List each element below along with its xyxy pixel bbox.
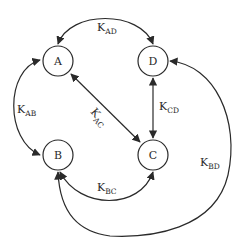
label-k-ab: KAB <box>17 103 37 118</box>
node-c-label: C <box>149 149 157 162</box>
diagram-canvas: A D B C KAD KAB KAC KCD KBC KBD <box>0 0 242 243</box>
node-d: D <box>138 46 168 76</box>
node-b: B <box>43 140 73 170</box>
node-a: A <box>43 46 73 76</box>
label-k-bd: KBD <box>200 156 220 171</box>
node-c: C <box>138 140 168 170</box>
edge-a-c <box>71 74 140 142</box>
node-b-label: B <box>54 149 62 162</box>
label-k-bc: KBC <box>97 181 117 196</box>
label-k-ad: KAD <box>97 21 117 36</box>
node-d-label: D <box>149 55 158 68</box>
label-k-cd: KCD <box>159 100 179 115</box>
node-a-label: A <box>53 55 63 68</box>
